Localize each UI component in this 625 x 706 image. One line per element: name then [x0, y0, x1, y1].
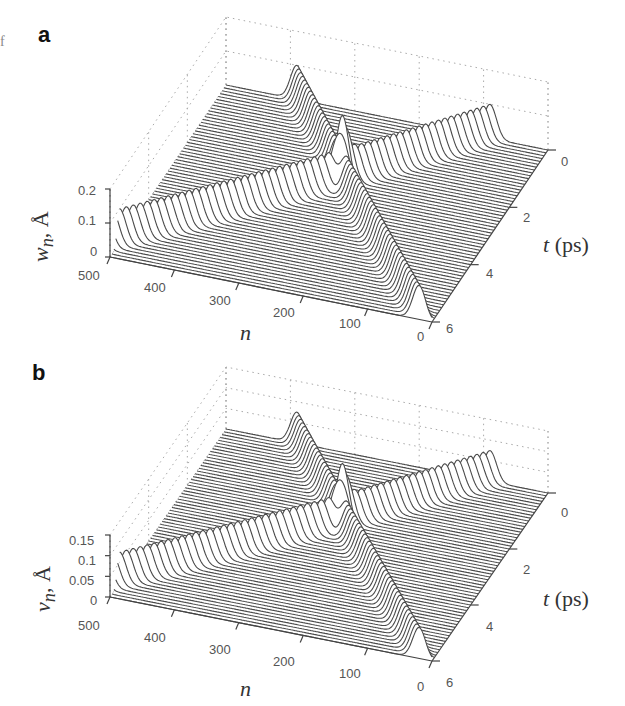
t-axis-title-a: t (ps) [543, 232, 589, 258]
z-tick: 0 [90, 245, 97, 258]
n-tick: 500 [78, 269, 100, 282]
t-tick: 4 [486, 267, 493, 280]
n-axis-title-b: n [240, 676, 251, 702]
n-tick: 0 [417, 680, 424, 693]
t-tick: 2 [523, 211, 530, 224]
n-tick: 100 [339, 317, 361, 330]
n-tick: 500 [78, 619, 100, 632]
panel-b: b 0.15 0.1 0.05 0 vn, Å 500 400 300 200 … [0, 340, 625, 706]
t-tick: 0 [561, 506, 568, 519]
z-tick: 0 [90, 594, 97, 607]
t-tick: 4 [486, 620, 493, 633]
n-tick: 300 [209, 294, 231, 307]
n-tick: 200 [273, 655, 295, 668]
t-tick: 0 [561, 155, 568, 168]
n-tick: 400 [144, 631, 166, 644]
z-tick: 0.2 [78, 184, 96, 197]
panel-letter-a: a [38, 22, 50, 48]
n-tick: 400 [144, 281, 166, 294]
t-tick: 6 [446, 322, 453, 335]
t-tick: 6 [446, 676, 453, 689]
panel-letter-b: b [32, 360, 45, 386]
n-tick: 100 [339, 667, 361, 680]
z-tick: 0.05 [69, 574, 94, 587]
t-axis-title-b: t (ps) [543, 586, 589, 612]
t-tick: 2 [523, 563, 530, 576]
z-axis-title-b: vn, Å [30, 566, 60, 612]
z-tick: 0.15 [69, 534, 94, 547]
waterfall-plot-a [0, 0, 625, 345]
z-tick: 0.1 [78, 554, 96, 567]
z-axis-title-a: wn, Å [28, 211, 58, 262]
waterfall-plot-b [0, 340, 625, 706]
n-tick: 200 [273, 306, 295, 319]
n-tick: 300 [209, 643, 231, 656]
panel-a: a 0.2 0.1 0 wn, Å 500 400 300 200 100 0 … [0, 0, 625, 345]
z-tick: 0.1 [78, 214, 96, 227]
